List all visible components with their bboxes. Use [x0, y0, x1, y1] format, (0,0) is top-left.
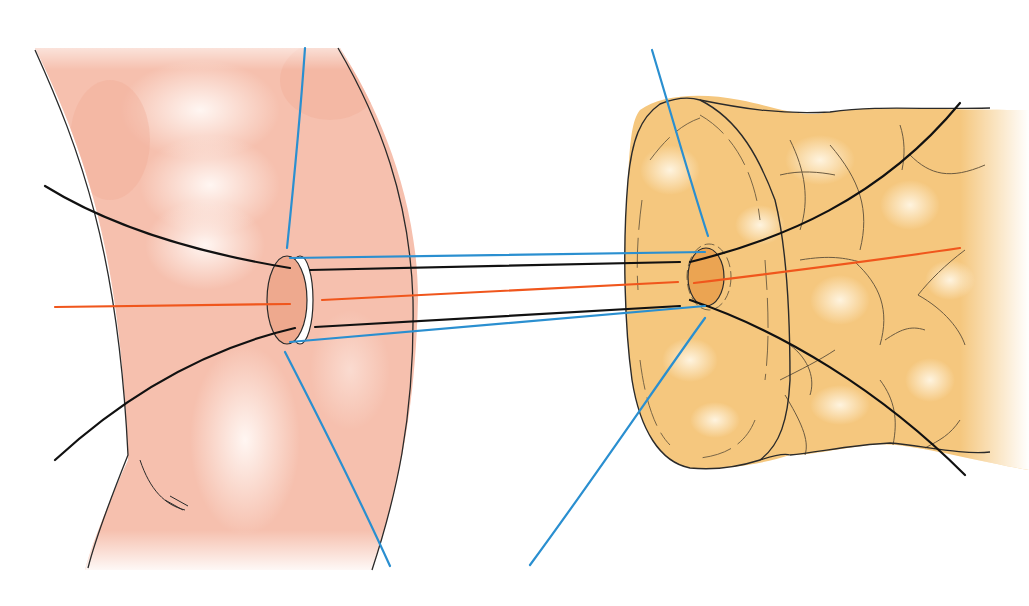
intestine [0, 30, 460, 575]
anastomosis-illustration [0, 0, 1029, 606]
illustration-stage: Duct-to-mucosa anastomosis with interrup… [0, 0, 1029, 606]
intestine-opening [267, 256, 313, 344]
pancreas [625, 90, 1029, 490]
